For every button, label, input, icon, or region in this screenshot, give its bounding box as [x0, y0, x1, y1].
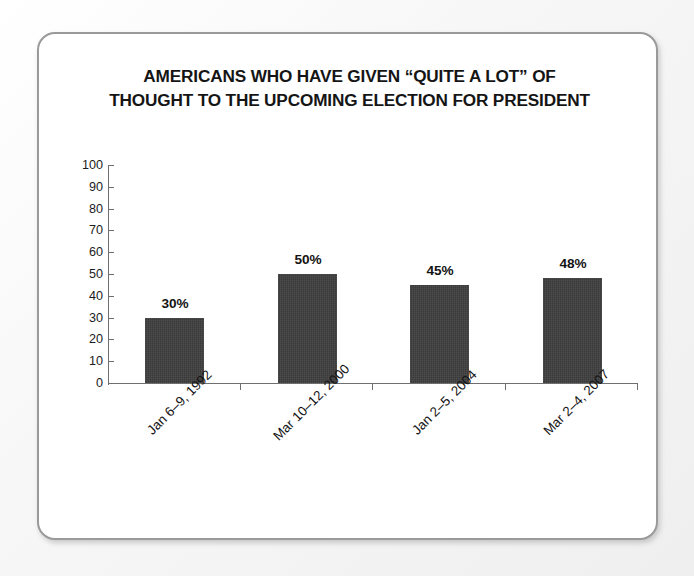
x-category-1-wrap: Jan 6–9, 1992 [108, 391, 240, 531]
y-tick-80 [108, 209, 114, 210]
y-tick-label-70-wrap: 70 [55, 224, 103, 236]
y-tick-label-80: 80 [59, 203, 103, 215]
y-tick-label-60-wrap: 60 [55, 246, 103, 258]
bar-jan-2004[interactable] [410, 285, 469, 383]
chart-frame: AMERICANS WHO HAVE GIVEN “QUITE A LOT” O… [37, 32, 658, 540]
y-tick-label-20: 20 [59, 333, 103, 345]
y-tick-label-40: 40 [59, 290, 103, 302]
y-tick-label-20-wrap: 20 [55, 333, 103, 345]
y-tick-50 [108, 274, 114, 275]
y-tick-label-100: 100 [59, 159, 103, 171]
y-tick-30 [108, 318, 114, 319]
x-tick-3 [505, 383, 506, 390]
y-axis-line [108, 165, 109, 385]
x-category-4-wrap: Mar 2–4, 2007 [505, 391, 637, 531]
y-tick-10 [108, 361, 114, 362]
bar-value-mar-2000: 50% [268, 252, 348, 268]
bar-value-mar-2007: 48% [533, 256, 613, 272]
y-tick-label-100-wrap: 100 [55, 159, 103, 171]
y-tick-label-80-wrap: 80 [55, 203, 103, 215]
x-tick-2 [372, 383, 373, 390]
chart-page: AMERICANS WHO HAVE GIVEN “QUITE A LOT” O… [0, 0, 694, 576]
y-tick-label-90-wrap: 90 [55, 181, 103, 193]
y-tick-label-60: 60 [59, 246, 103, 258]
y-tick-60 [108, 252, 114, 253]
bar-value-jan-1992: 30% [135, 296, 215, 312]
y-tick-label-40-wrap: 40 [55, 290, 103, 302]
y-tick-label-50-wrap: 50 [55, 268, 103, 280]
x-category-3-wrap: Jan 2–5, 2004 [373, 391, 505, 531]
x-tick-4 [637, 383, 638, 390]
y-tick-label-90: 90 [59, 181, 103, 193]
plot-area: 100 90 80 70 60 50 4 [39, 34, 660, 542]
y-tick-70 [108, 230, 114, 231]
y-tick-label-0-wrap: 0 [55, 377, 103, 389]
bar-mar-2007[interactable] [543, 278, 602, 383]
bar-value-jan-2004: 45% [400, 263, 480, 279]
y-tick-label-10: 10 [59, 355, 103, 367]
y-tick-20 [108, 339, 114, 340]
y-tick-40 [108, 296, 114, 297]
x-tick-1 [240, 383, 241, 390]
y-tick-label-70: 70 [59, 224, 103, 236]
y-tick-label-30: 30 [59, 312, 103, 324]
y-tick-label-30-wrap: 30 [55, 312, 103, 324]
y-tick-0 [108, 383, 114, 384]
y-tick-label-50: 50 [59, 268, 103, 280]
y-tick-90 [108, 187, 114, 188]
bar-jan-1992[interactable] [145, 318, 204, 383]
y-tick-label-0: 0 [59, 377, 103, 389]
y-tick-label-10-wrap: 10 [55, 355, 103, 367]
x-category-2-wrap: Mar 10–12, 2000 [240, 391, 372, 531]
bar-mar-2000[interactable] [278, 274, 337, 383]
y-tick-100 [108, 165, 114, 166]
